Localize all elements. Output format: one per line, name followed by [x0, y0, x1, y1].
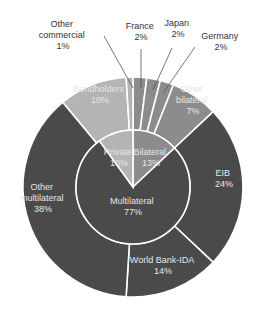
label-france: France 2%: [126, 21, 157, 42]
label-germany: Germany 2%: [201, 31, 241, 52]
label-eib: EIB 24%: [215, 168, 233, 189]
label-japan: Japan 2%: [164, 18, 191, 39]
label-other-commercial: Other commercial 1%: [39, 19, 88, 51]
sunburst-chart: Other commercial 1% France 2% Japan 2% G…: [0, 0, 267, 324]
